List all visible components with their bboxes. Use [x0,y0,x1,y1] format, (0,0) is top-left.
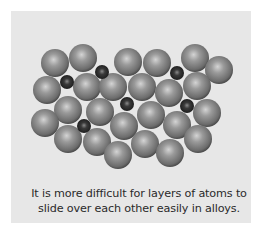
small-atom [60,75,74,89]
large-atom [33,76,61,104]
caption-line-1: It is more difficult for layers of atoms… [22,187,256,202]
large-atom [73,73,101,101]
large-atom [184,125,212,153]
small-atom [95,65,109,79]
large-atom [86,98,114,126]
figure-caption: It is more difficult for layers of atoms… [22,187,256,216]
large-atom [31,109,59,137]
small-atom [180,99,194,113]
large-atom [69,44,97,72]
large-atom [104,141,132,169]
large-atom [131,130,159,158]
large-atom [156,139,184,167]
large-atom [193,99,221,127]
large-atom [41,49,69,77]
large-atom [155,79,183,107]
small-atom [77,119,91,133]
small-atom [170,66,184,80]
large-atom [128,73,156,101]
large-atom [181,44,209,72]
caption-line-2: slide over each other easily in alloys. [22,202,256,217]
large-atom [137,101,165,129]
large-atom [183,72,211,100]
large-atom [143,49,171,77]
large-atom [114,48,142,76]
small-atom [120,97,134,111]
